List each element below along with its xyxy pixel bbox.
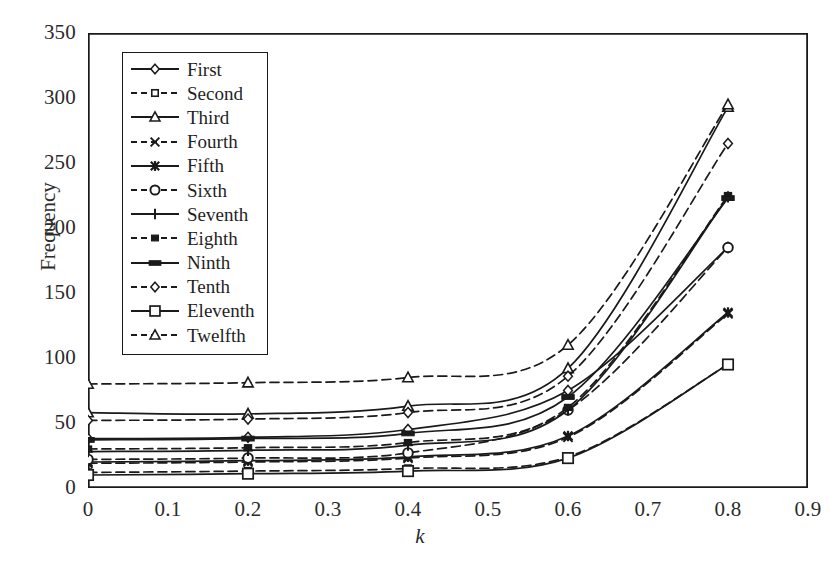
legend-label: Seventh [187,205,248,224]
data-marker [88,438,94,443]
legend-item[interactable]: First [123,57,267,81]
legend-marker-icon [129,132,181,152]
x-tick-label: 0.9 [778,497,838,522]
legend-marker-icon [129,277,181,297]
legend-marker-icon [129,301,181,321]
data-marker [243,469,253,479]
x-tick-label: 0.7 [618,497,678,522]
data-marker [152,90,158,96]
x-tick-label: 0.6 [538,497,598,522]
data-marker [242,436,254,441]
legend-label: Eleventh [187,301,255,320]
data-marker [404,440,411,446]
legend-marker-icon [129,180,181,200]
legend-item[interactable]: Fourth [123,130,267,154]
legend-marker-icon [129,228,181,248]
y-tick-label: 350 [6,20,76,45]
legend-label: Eighth [187,229,238,248]
legend-label: Third [187,108,229,127]
x-tick-label: 0.1 [138,497,198,522]
legend-marker-icon [129,253,181,273]
data-marker [88,446,92,452]
x-axis-label: k [0,524,840,549]
x-tick-label: 0.5 [458,497,518,522]
data-marker [244,445,251,451]
data-marker [150,209,160,220]
y-tick-label: 200 [6,215,76,240]
data-marker [152,236,159,242]
data-marker [149,260,161,265]
data-marker [724,139,733,149]
data-marker [722,196,734,201]
legend-item[interactable]: Third [123,105,267,129]
legend-marker-icon [129,204,181,224]
figure-container: Frequency 050100150200250300350 00.10.20… [0,0,840,561]
legend-label: Tenth [187,277,230,296]
legend-item[interactable]: Twelfth [123,323,267,347]
x-tick-label: 0.4 [378,497,438,522]
legend-item[interactable]: Fifth [123,154,267,178]
data-marker [562,395,574,400]
legend-item[interactable]: Sixth [123,178,267,202]
data-marker [723,243,733,253]
data-marker [723,99,733,109]
x-tick-label: 0.2 [218,497,278,522]
legend-label: Twelfth [187,326,246,345]
legend-label: Sixth [187,181,227,200]
x-tick-label: 0 [58,497,118,522]
y-tick-label: 250 [6,150,76,175]
legend-marker-icon [129,107,181,127]
data-marker [563,453,573,463]
data-marker [724,307,733,317]
y-tick-label: 300 [6,85,76,110]
data-marker [150,306,160,316]
legend-label: First [187,60,222,79]
legend-marker-icon [129,59,181,79]
y-tick-label: 100 [6,345,76,370]
legend-marker-icon [129,83,181,103]
legend-marker-icon [129,156,181,176]
legend-label: Second [187,84,243,103]
x-tick-label: 0.3 [298,497,358,522]
data-marker [723,359,733,369]
data-marker [564,431,573,441]
legend-item[interactable]: Seventh [123,202,267,226]
legend-item[interactable]: Second [123,81,267,105]
legend-marker-icon [129,325,181,345]
data-marker [564,404,571,410]
legend-item[interactable]: Ninth [123,251,267,275]
legend-box: FirstSecondThirdFourthFifthSixthSeventhE… [122,52,268,355]
y-tick-label: 50 [6,410,76,435]
legend-label: Fifth [187,156,224,175]
legend-item[interactable]: Eighth [123,226,267,250]
data-marker [403,466,413,476]
legend-item[interactable]: Eleventh [123,299,267,323]
legend-item[interactable]: Tenth [123,275,267,299]
legend-label: Ninth [187,253,230,272]
x-tick-label: 0.8 [698,497,758,522]
data-marker [402,431,414,436]
data-marker [151,282,159,292]
data-marker [88,470,93,480]
y-tick-label: 150 [6,280,76,305]
data-marker [151,64,159,74]
data-marker [150,185,159,194]
legend-label: Fourth [187,132,238,151]
